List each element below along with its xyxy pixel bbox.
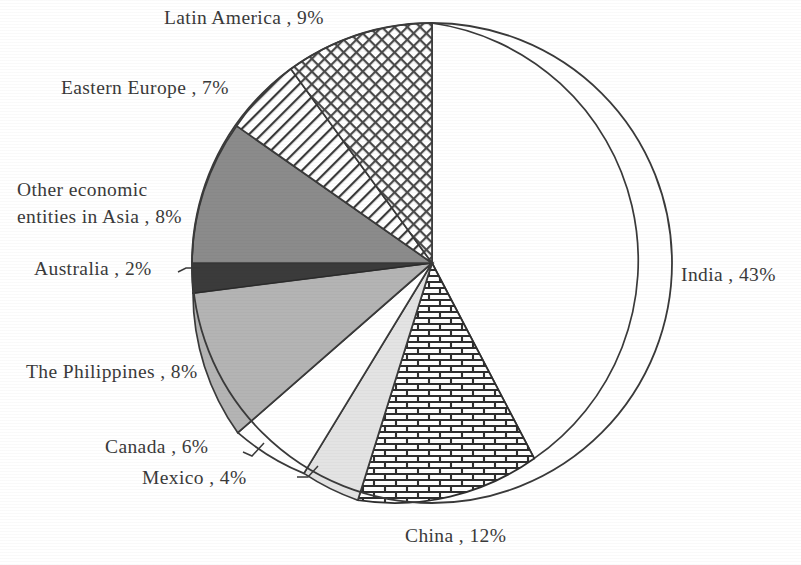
pie-label-eastern-europe: Eastern Europe , 7%: [61, 76, 229, 100]
pie-label-other-asia-line2: entities in Asia , 8%: [17, 203, 182, 230]
pie-label-india: India , 43%: [681, 263, 776, 287]
pie-label-philippines: The Philippines , 8%: [26, 360, 198, 384]
pie-label-china: China , 12%: [405, 524, 506, 548]
pie-slices: [192, 23, 672, 503]
pie-label-latin-america: Latin America , 9%: [164, 6, 324, 30]
pie-label-other-asia-line1: Other economic: [17, 176, 182, 203]
pie-label-other-asia: Other economic entities in Asia , 8%: [17, 176, 182, 230]
pie-label-australia: Australia , 2%: [34, 257, 152, 281]
pie-label-mexico: Mexico , 4%: [142, 466, 247, 490]
pie-label-canada: Canada , 6%: [105, 435, 209, 459]
pie-chart: Latin America , 9% Eastern Europe , 7% O…: [0, 0, 801, 565]
